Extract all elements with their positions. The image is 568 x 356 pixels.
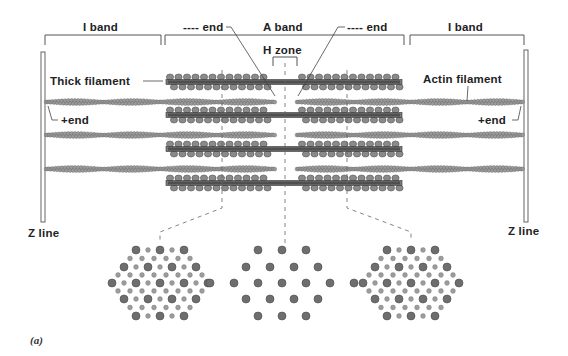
actin-filament <box>44 99 277 106</box>
i-band-right-label: I band <box>448 22 483 34</box>
cross-section-h-zone <box>206 246 358 320</box>
i-band-left-bracket <box>45 35 161 45</box>
plus-end-left-label: +end <box>61 115 89 127</box>
z-line-right-label: Z line <box>508 226 539 238</box>
z-line-left <box>41 52 45 222</box>
actin-filament <box>295 166 524 173</box>
actin-filament <box>295 132 524 139</box>
plus-end-left-leader <box>48 106 58 120</box>
thick-filament <box>166 107 403 123</box>
i-band-right-bracket <box>410 35 524 45</box>
cross-section-overlap-region-left <box>108 246 212 320</box>
actin-filaments <box>44 99 524 173</box>
panel-label: (a) <box>30 334 43 346</box>
thick-filament-label: Thick filament <box>50 76 130 88</box>
actin-filament-leader <box>467 86 468 101</box>
thick-filament <box>166 175 403 191</box>
actin-filament-label: Actin filament <box>423 74 502 86</box>
minus-end-left-label: ---- end <box>183 22 224 34</box>
z-line-right <box>524 50 528 222</box>
actin-filament <box>44 166 277 173</box>
minus-end-right-label: ---- end <box>347 22 388 34</box>
z-line-left-label: Z line <box>28 228 59 240</box>
i-band-left-label: I band <box>83 22 118 34</box>
h-zone-label: H zone <box>263 45 302 57</box>
cross-section-overlap-region-right <box>359 246 463 320</box>
plus-end-right-label: +end <box>478 115 506 127</box>
actin-filament <box>295 99 524 106</box>
cross-sections <box>108 246 463 320</box>
actin-filament <box>44 132 277 139</box>
a-band-label: A band <box>263 22 303 34</box>
thick-filament <box>166 74 403 90</box>
thick-filament <box>166 141 403 157</box>
plus-end-right-leader <box>512 106 521 120</box>
